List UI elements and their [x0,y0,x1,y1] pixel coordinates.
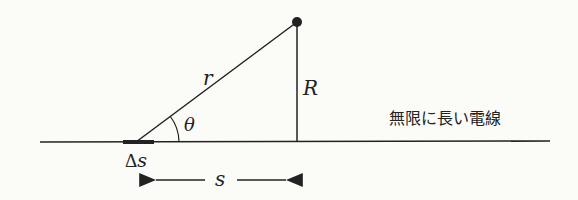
wire-line [40,141,550,142]
label-r: r [203,66,214,90]
label-R: R [302,76,318,100]
angle-arc [170,116,179,142]
label-distance-s: s [215,167,225,191]
label-theta: θ [184,114,195,135]
delta-symbol: Δ [125,150,137,171]
label-delta-s: Δs [125,149,147,171]
delta-s-letter: s [137,149,147,171]
field-point-dot [292,17,302,27]
hypotenuse-line [136,22,297,142]
label-wire: 無限に長い電線 [389,109,501,128]
diagram-canvas: r R θ Δs s 無限に長い電線 [0,0,578,200]
